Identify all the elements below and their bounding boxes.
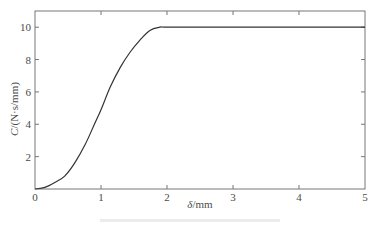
- plot-frame: [35, 11, 365, 189]
- y-tick-label: 2: [26, 151, 32, 163]
- y-tick-label: 4: [26, 118, 32, 130]
- x-tick-label: 4: [296, 191, 302, 203]
- x-axis-label: δ/mm: [187, 198, 213, 210]
- x-tick-label: 2: [164, 191, 170, 203]
- y-tick-label: 8: [26, 54, 32, 66]
- y-axis-label: C/(N·s/mm): [8, 82, 21, 136]
- x-tick-label: 5: [362, 191, 368, 203]
- y-tick-label: 10: [20, 21, 32, 33]
- damping-curve: [35, 27, 365, 189]
- x-tick-label: 1: [98, 191, 104, 203]
- y-axis-unit: /(N·s/mm): [8, 82, 21, 129]
- x-tick-label: 0: [32, 191, 38, 203]
- axis-ticks: [35, 11, 365, 189]
- x-tick-label: 3: [230, 191, 236, 203]
- figure-caption-faded: [100, 219, 280, 222]
- y-tick-labels: 246810: [20, 21, 32, 162]
- x-axis-unit: /mm: [192, 198, 213, 210]
- y-tick-label: 6: [26, 86, 32, 98]
- line-chart: 012345 246810 δ/mm C/(N·s/mm): [0, 0, 377, 226]
